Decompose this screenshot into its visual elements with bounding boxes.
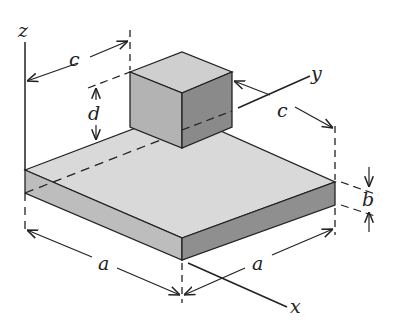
plate-and-cube-diagram: y x z c d c b a xyxy=(0,0,393,326)
cube xyxy=(130,52,232,148)
z-axis-label: z xyxy=(17,19,29,41)
x-axis-label: x xyxy=(290,295,301,317)
svg-text:b: b xyxy=(362,188,374,210)
svg-text:a: a xyxy=(98,252,109,274)
dimension-d: d xyxy=(88,72,130,140)
svg-text:d: d xyxy=(88,102,100,124)
x-axis xyxy=(188,263,287,307)
y-axis xyxy=(238,76,310,108)
dimension-c-top: c xyxy=(27,30,130,81)
svg-text:c: c xyxy=(69,48,80,70)
svg-text:a: a xyxy=(252,252,263,274)
y-axis-label: y xyxy=(310,62,322,84)
dimension-b: b xyxy=(341,167,378,232)
svg-text:c: c xyxy=(277,99,288,121)
